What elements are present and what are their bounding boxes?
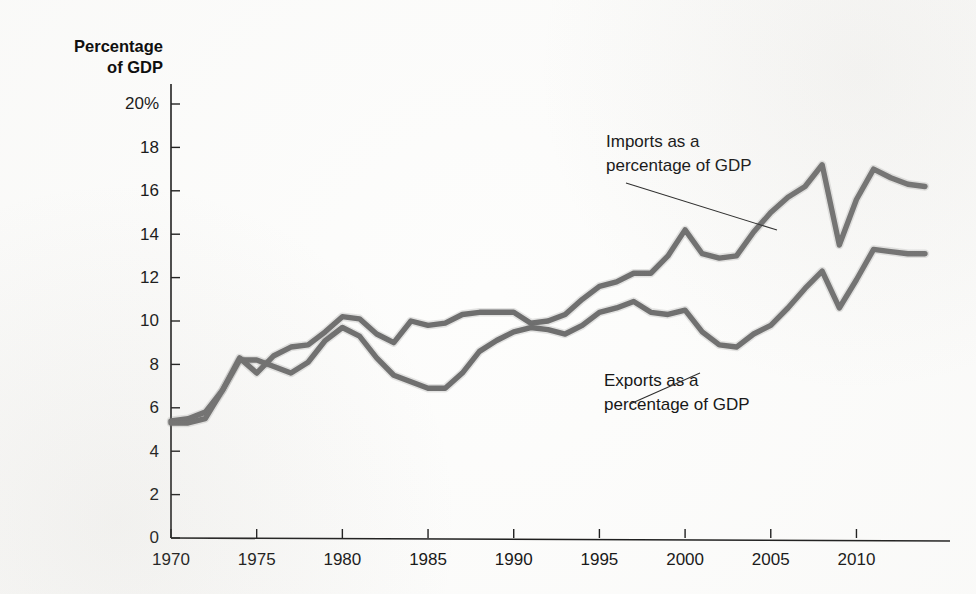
y-axis-tick-label: 8 (150, 355, 159, 374)
series-line (171, 249, 925, 423)
x-axis-tick-label: 2000 (666, 550, 704, 569)
y-axis-tick-label: 14 (140, 225, 159, 244)
trade-share-of-gdp-chart: Percentageof GDP 02468101214161820% 1970… (0, 0, 976, 594)
y-axis-tick-label: 6 (150, 398, 159, 417)
x-axis-tick-label: 1990 (495, 550, 533, 569)
x-axis-tick-label: 2005 (752, 550, 790, 569)
imports-annotation-line: percentage of GDP (606, 156, 752, 175)
y-axis-tick-label: 20% (125, 94, 159, 113)
series-lines (171, 165, 925, 423)
series-line-halo (171, 165, 925, 421)
y-axis: 02468101214161820% (125, 84, 180, 547)
x-axis: 197019751980198519901995200020052010 (152, 529, 950, 569)
x-axis-tick-label: 1970 (152, 550, 190, 569)
x-axis-tick-label: 1975 (238, 550, 276, 569)
y-axis-tick-label: 12 (140, 268, 159, 287)
figure-canvas: Percentageof GDP 02468101214161820% 1970… (0, 0, 976, 594)
series-line (171, 165, 925, 421)
y-axis-title: Percentageof GDP (74, 37, 163, 76)
y-axis-tick-label: 10 (140, 311, 159, 330)
y-axis-tick-label: 2 (150, 485, 159, 504)
x-axis-tick-label: 1980 (323, 550, 361, 569)
imports-annotation-line: Imports as a (606, 132, 700, 151)
imports-annotation-leader-line (626, 183, 777, 230)
exports-annotation-line: percentage of GDP (604, 395, 750, 414)
x-axis-tick-label: 1995 (580, 550, 618, 569)
y-axis-tick-label: 0 (150, 528, 159, 547)
exports-annotation-line: Exports as a (604, 371, 699, 390)
y-axis-tick-label: 4 (150, 442, 159, 461)
x-axis-tick-label: 1985 (409, 550, 447, 569)
series-line-halo (171, 249, 925, 423)
x-axis-tick-label: 2010 (838, 550, 876, 569)
y-axis-title-line: Percentage (74, 37, 163, 55)
y-axis-tick-label: 16 (140, 181, 159, 200)
x-axis-line (171, 538, 950, 541)
y-axis-title-line: of GDP (107, 58, 163, 76)
y-axis-tick-label: 18 (140, 138, 159, 157)
